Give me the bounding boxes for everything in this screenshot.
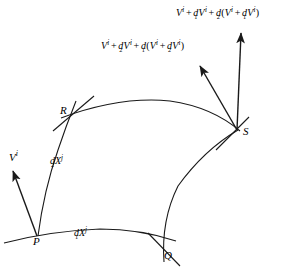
expr-r-d1: d1 — [141, 41, 146, 51]
expr-q-d2: d2 — [216, 8, 221, 18]
curve-P-to-R — [38, 101, 76, 236]
coordinate-label-dX1: d1Xj — [74, 227, 87, 238]
expr-q-token-10: Vi — [247, 7, 256, 18]
parallel-transport-figure: Vi+d1Vi+d2(Vi+d1Vi) Vi+d2Vi+d1(Vi+d2Vi) … — [0, 0, 306, 267]
point-label-P: P — [33, 236, 40, 247]
expr-r-paren-close: ) — [181, 40, 185, 51]
point-label-Q: Q — [164, 250, 172, 261]
point-label-S: S — [243, 126, 249, 137]
curve-R-to-S — [61, 100, 240, 131]
expr-q-plus-3: + — [233, 7, 242, 18]
curve-Q-to-S — [164, 130, 238, 262]
expr-r-d2-b: d2 — [167, 41, 172, 51]
vector-transported-via-R — [200, 66, 237, 130]
expr-q-d1-b: d1 — [242, 8, 247, 18]
expr-r-token-10: Vi — [172, 40, 181, 51]
vector-label-V-at-P: Vi — [9, 150, 18, 163]
expr-q-plus-1: + — [185, 7, 194, 18]
dX2-superscript: j — [61, 154, 63, 162]
dX2-differential: d2 — [50, 156, 55, 166]
expr-r-d2-a: d2 — [118, 41, 123, 51]
expr-r-plus-1: + — [110, 40, 119, 51]
expr-q-token-7: Vi — [225, 7, 234, 18]
expr-r-plus-2: + — [132, 40, 141, 51]
expr-r-token-3: Vi — [124, 40, 133, 51]
expr-q-plus-2: + — [207, 7, 216, 18]
dX1-differential: d1 — [74, 228, 79, 238]
expr-q-token-3: Vi — [199, 7, 208, 18]
expression-transported-via-Q: Vi+d1Vi+d2(Vi+d1Vi) — [176, 7, 259, 18]
expr-q-paren-close: ) — [256, 7, 260, 18]
expr-r-token-7: Vi — [150, 40, 159, 51]
coordinate-label-dX2: d2Xj — [50, 155, 63, 166]
expr-r-plus-3: + — [158, 40, 167, 51]
vector-label-superscript: i — [16, 149, 18, 158]
vector-transported-via-Q — [237, 33, 241, 130]
expr-q-token-0: Vi — [176, 7, 185, 18]
dX1-superscript: j — [85, 226, 87, 234]
vector-V-at-P — [13, 171, 37, 236]
expression-transported-via-R: Vi+d2Vi+d1(Vi+d2Vi) — [101, 40, 184, 51]
expr-q-d1-a: d1 — [193, 8, 198, 18]
expr-r-token-0: Vi — [101, 40, 110, 51]
point-label-R: R — [60, 105, 67, 116]
